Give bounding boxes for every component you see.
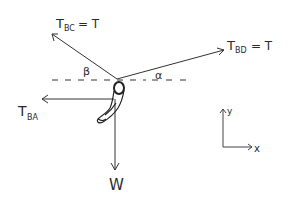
t-bd-main: T xyxy=(226,38,235,53)
y-axis-label: y xyxy=(227,106,233,116)
alpha-angle-label: α xyxy=(155,69,162,82)
beta-angle-label: β xyxy=(83,65,90,78)
x-axis-label: x xyxy=(254,143,260,154)
hanging-object-icon xyxy=(97,82,124,123)
weight-label: W xyxy=(109,176,124,194)
t-bc-sub: BC xyxy=(64,24,75,33)
t-ba-sub: BA xyxy=(27,113,38,122)
t-bc-label: T BC = T xyxy=(55,16,100,33)
coordinate-axes: y x xyxy=(220,106,260,154)
t-ba-main: T xyxy=(17,103,27,119)
t-bd-vector xyxy=(117,50,224,79)
t-ba-label: T BA xyxy=(17,103,38,122)
t-bd-eq: = T xyxy=(251,39,273,53)
t-bc-main: T xyxy=(55,16,64,31)
diagram-svg: T BC = T T BD = T T BA W β α y x xyxy=(0,0,288,206)
t-bc-eq: = T xyxy=(78,17,100,31)
t-bd-label: T BD = T xyxy=(226,38,273,55)
t-bd-sub: BD xyxy=(235,46,247,55)
free-body-diagram: T BC = T T BD = T T BA W β α y x xyxy=(0,0,288,206)
